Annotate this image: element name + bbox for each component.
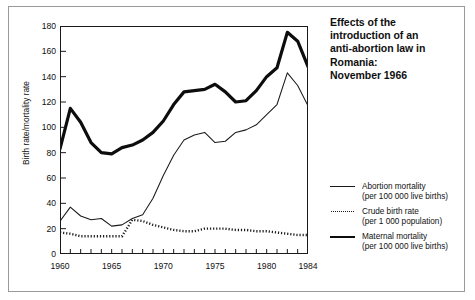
legend-swatch-icon [330,186,355,187]
y-tick-label: 0 [51,249,56,259]
legend-item-label: Crude birth rate [362,207,472,217]
y-tick-label: 180 [42,21,56,31]
legend-item: Crude birth rate(per 1 000 population) [330,207,472,227]
y-tick-label: 100 [42,122,56,132]
chart-title-line: Effects of the [330,16,465,29]
legend-item-sublabel: (per 1 000 population) [362,217,472,227]
chart-figure: Birth rate/mortality rate 02040608010012… [0,0,475,300]
x-tick-label: 1984 [298,261,317,271]
x-tick-label: 1960 [50,261,69,271]
chart-title-line: November 1966 [330,69,465,82]
y-tick-label: 80 [46,148,56,158]
legend-item-sublabel: (per 100 000 live births) [362,242,472,252]
x-tick-label: 1965 [102,261,121,271]
y-tick-label: 60 [46,173,56,183]
y-tick-label: 120 [42,97,56,107]
legend-item: Maternal mortality(per 100 000 live birt… [330,232,472,252]
y-tick-label: 160 [42,46,56,56]
chart-title-line: anti-abortion law in [330,42,465,55]
x-axis-ticks: 196019651970197519801984 [60,258,308,272]
y-tick-label: 20 [46,224,56,234]
x-tick-label: 1980 [257,261,276,271]
plot-frame [60,26,308,254]
chart-title-line: Romania: [330,56,465,69]
chart-title-line: introduction of an [330,29,465,42]
legend-item-label: Maternal mortality [362,232,472,242]
legend-item-label: Abortion mortality [362,182,472,192]
legend-swatch-icon [330,236,355,238]
y-tick-label: 40 [46,198,56,208]
plot-area [60,26,308,254]
legend-item: Abortion mortality(per 100 000 live birt… [330,182,472,202]
y-axis-ticks: 020406080100120140160180 [22,26,56,254]
legend-item-sublabel: (per 100 000 live births) [362,192,472,202]
chart-title: Effects of theintroduction of ananti-abo… [330,16,465,82]
x-tick-label: 1975 [205,261,224,271]
chart-legend: Abortion mortality(per 100 000 live birt… [330,182,472,257]
legend-swatch-icon [331,211,354,212]
y-tick-label: 140 [42,72,56,82]
x-tick-label: 1970 [154,261,173,271]
